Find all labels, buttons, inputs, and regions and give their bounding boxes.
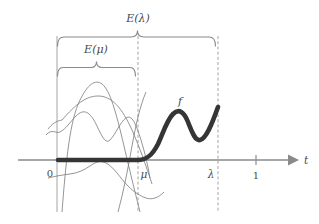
approximation-curve-5 — [118, 92, 146, 212]
approximation-curve-1 — [62, 82, 140, 212]
axis-label-t: t — [304, 154, 309, 166]
approximation-curve-3 — [46, 112, 150, 178]
brace-mu-label: E(μ) — [83, 43, 108, 56]
axis-arrow-icon — [288, 155, 299, 166]
approximation-curve-2 — [48, 96, 152, 184]
tick-label-one: 1 — [253, 170, 259, 181]
diagram-canvas: E(λ) E(μ) f 0 μ λ 1 t — [0, 0, 319, 224]
function-label-f: f — [177, 95, 184, 108]
brace-mu — [58, 62, 136, 77]
tick-label-lambda: λ — [207, 168, 215, 180]
brace-lambda — [58, 31, 216, 47]
tick-label-zero: 0 — [47, 168, 53, 179]
tick-label-mu: μ — [141, 168, 148, 180]
figure-container: E(λ) E(μ) f 0 μ λ 1 t — [0, 0, 319, 224]
brace-lambda-label: E(λ) — [125, 12, 150, 25]
